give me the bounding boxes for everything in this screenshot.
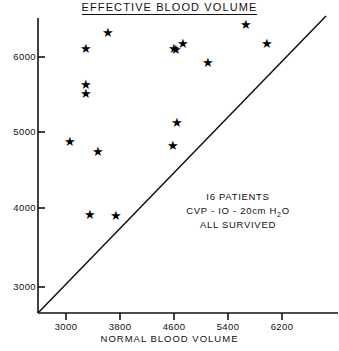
x-tick-label-5400: 5400 [206, 321, 250, 332]
annotation-line-1: I6 PATIENTS [168, 190, 308, 204]
y-tick-label-3000: 3000 [0, 281, 36, 292]
star-icon: ★ [80, 87, 93, 100]
star-icon: ★ [166, 139, 179, 152]
x-tick-label-3000: 3000 [44, 321, 88, 332]
star-icon: ★ [64, 135, 77, 148]
star-icon: ★ [83, 208, 96, 221]
star-icon: ★ [201, 56, 214, 69]
x-tick-label-3800: 3800 [98, 321, 142, 332]
star-icon: ★ [240, 18, 253, 31]
annotation-line-2-post: O [282, 205, 290, 216]
star-icon: ★ [176, 37, 189, 50]
x-tick-label-4600: 4600 [152, 321, 196, 332]
x-axis-label: NORMAL BLOOD VOLUME [0, 333, 339, 344]
star-icon: ★ [261, 37, 274, 50]
x-tick-label-6200: 6200 [260, 321, 304, 332]
star-icon: ★ [101, 26, 114, 39]
y-tick-label-4000: 4000 [0, 202, 36, 213]
annotation-line-3: ALL SURVIVED [168, 218, 308, 232]
y-tick-label-5000: 5000 [0, 126, 36, 137]
annotation-line-2-pre: CVP - IO - 20cm H [186, 205, 277, 216]
star-icon: ★ [91, 145, 104, 158]
star-icon: ★ [80, 42, 93, 55]
identity-reference-line [38, 16, 326, 313]
star-icon: ★ [171, 116, 184, 129]
star-icon: ★ [109, 209, 122, 222]
scatter-plot-figure: EFFECTIVE BLOOD VOLUME 6000 5000 4000 30… [0, 0, 339, 351]
y-tick-label-6000: 6000 [0, 51, 36, 62]
